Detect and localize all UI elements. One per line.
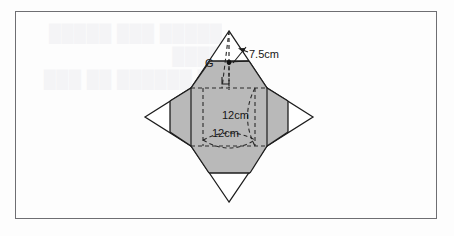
- label-point-g: G: [205, 57, 214, 69]
- label-slant-height: 7.5cm: [249, 48, 279, 60]
- right-gray-wing: [267, 88, 288, 146]
- label-base-edge: 12cm: [212, 127, 239, 139]
- lower-gray-band: [191, 146, 267, 173]
- left-gray-wing: [170, 88, 191, 146]
- page-root: █████ ███ █████ ████ ██ ██████ ██ ███ ██…: [0, 0, 454, 236]
- point-g-dot-icon: [227, 60, 232, 65]
- label-vertical-height: 12cm: [222, 109, 249, 121]
